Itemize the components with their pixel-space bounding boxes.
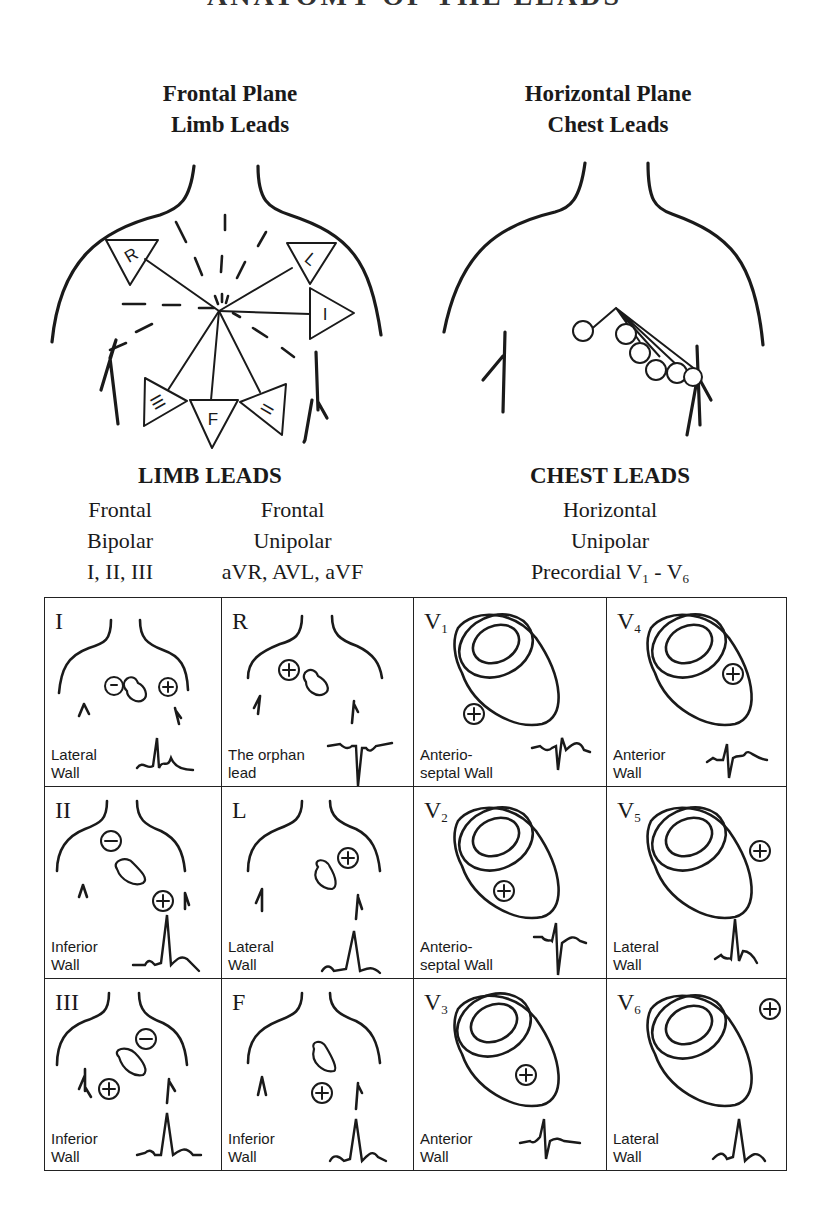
- grid-cell-lead-v6: V6 Lateral Wall: [607, 979, 786, 1170]
- lead-grid: I Lateral Wall R The orphan lead V: [44, 597, 787, 1171]
- chest-plane: Horizontal: [480, 494, 740, 525]
- lead-label: V6: [617, 989, 641, 1018]
- grid-cell-lead-ii: II Inferior Wall: [45, 787, 222, 979]
- lead-label: R: [232, 608, 248, 637]
- wall-label: Anterior Wall: [420, 1130, 473, 1166]
- wall-label: Anterio- septal Wall: [420, 746, 493, 782]
- chest-leads-range: Precordial V1 - V6: [480, 556, 740, 594]
- electrode-label-iii: III: [146, 391, 170, 413]
- wall-label: Lateral Wall: [51, 746, 97, 782]
- unipolar-column: Frontal Unipolar aVR, AVL, aVF: [200, 494, 385, 587]
- chest-leads-heading: CHEST LEADS: [500, 463, 720, 489]
- grid-cell-lead-v4: V4 Anterior Wall: [607, 598, 786, 787]
- electrode-label-ii: II: [257, 400, 278, 418]
- wall-label: Inferior Wall: [51, 1130, 98, 1166]
- lead-label: II: [55, 797, 71, 826]
- wall-label: Inferior Wall: [228, 1130, 275, 1166]
- chest-column: Horizontal Unipolar Precordial V1 - V6: [480, 494, 740, 594]
- horizontal-torso-outline: [444, 163, 763, 435]
- unipolar-type: Unipolar: [200, 525, 385, 556]
- unipolar-leads: aVR, AVL, aVF: [200, 556, 385, 587]
- electrode-label-l: L: [301, 249, 320, 270]
- wall-label: Lateral Wall: [613, 1130, 659, 1166]
- chest-type: Unipolar: [480, 525, 740, 556]
- chest-electrodes: [573, 308, 702, 386]
- limb-electrodes: [106, 240, 354, 448]
- lead-label: L: [232, 797, 247, 826]
- grid-cell-lead-v1: V1 Anterio- septal Wall: [414, 598, 607, 787]
- wall-label: Anterior Wall: [613, 746, 666, 782]
- grid-cell-lead-i: I Lateral Wall: [45, 598, 222, 787]
- bipolar-column: Frontal Bipolar I, II, III: [55, 494, 185, 587]
- lead-label: V4: [617, 608, 641, 637]
- lead-label: V2: [424, 797, 448, 826]
- wall-label: The orphan lead: [228, 746, 305, 782]
- grid-cell-lead-v2: V2 Anterio- septal Wall: [414, 787, 607, 979]
- electrode-label-f: F: [208, 410, 218, 429]
- bipolar-leads: I, II, III: [55, 556, 185, 587]
- grid-cell-lead-l: L Lateral Wall: [222, 787, 414, 979]
- electrode-label-r: R: [121, 244, 141, 267]
- wall-label: Lateral Wall: [613, 938, 659, 974]
- unipolar-plane: Frontal: [200, 494, 385, 525]
- wall-label: Lateral Wall: [228, 938, 274, 974]
- wall-label: Anterio- septal Wall: [420, 938, 493, 974]
- limb-leads-heading: LIMB LEADS: [110, 463, 310, 489]
- wall-label: Inferior Wall: [51, 938, 98, 974]
- lead-label: V1: [424, 608, 448, 637]
- lead-label: I: [55, 608, 63, 637]
- bipolar-plane: Frontal: [55, 494, 185, 525]
- grid-cell-lead-v3: V3 Anterior Wall: [414, 979, 607, 1170]
- lead-label: V5: [617, 797, 641, 826]
- grid-cell-lead-v5: V5 Lateral Wall: [607, 787, 786, 979]
- electrode-label-i: I: [323, 305, 328, 324]
- lead-label: V3: [424, 989, 448, 1018]
- grid-cell-lead-r: R The orphan lead: [222, 598, 414, 787]
- lead-label: F: [232, 989, 245, 1018]
- grid-cell-lead-iii: III Inferior Wall: [45, 979, 222, 1170]
- grid-cell-lead-f: F Inferior Wall: [222, 979, 414, 1170]
- lead-label: III: [55, 989, 79, 1018]
- bipolar-type: Bipolar: [55, 525, 185, 556]
